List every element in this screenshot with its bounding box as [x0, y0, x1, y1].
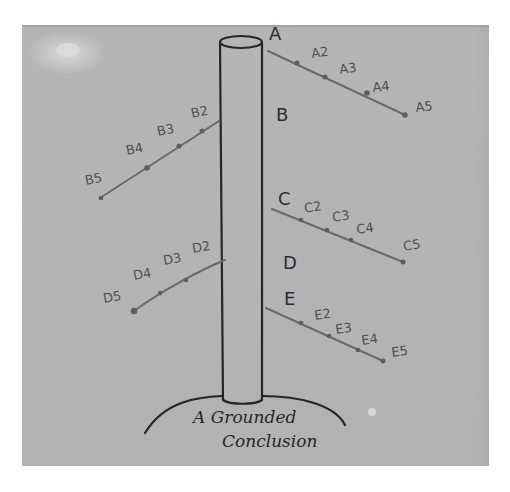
branch-a: A A2 A3 A4 A5: [268, 23, 433, 118]
branch-b: B B2 B3 B4 B5: [84, 103, 289, 201]
point-label: C5: [402, 236, 422, 254]
point-label: A2: [310, 44, 329, 61]
point-label: B4: [125, 140, 145, 158]
branch-d: D D2 D3 D4 D5: [102, 238, 297, 314]
point-label: D4: [132, 265, 153, 283]
branch-point: [327, 334, 332, 339]
point-label: C3: [331, 207, 351, 225]
point-label: B2: [190, 103, 210, 121]
point-label: C4: [355, 220, 374, 237]
point-label: B3: [156, 121, 176, 139]
glare-dot: [368, 408, 376, 416]
pillar: [220, 36, 262, 404]
glare-spot: [56, 43, 80, 57]
branch-e: E E2 E3 E4 E5: [266, 288, 409, 364]
branch-point: [158, 291, 162, 295]
branch-point: [200, 129, 205, 134]
branch-point: [299, 218, 304, 223]
branch-point: [325, 228, 330, 233]
branch-point: [295, 61, 300, 66]
point-label: E2: [313, 306, 331, 323]
point-label: D2: [191, 238, 212, 256]
point-label: A4: [372, 78, 391, 95]
pillar-base: [223, 400, 262, 404]
pillar-diagram: A A2 A3 A4 A5 B B2 B3 B4 B5 C C2 C3 C4 C…: [0, 0, 510, 492]
pillar-left-edge: [220, 43, 223, 400]
branch-point: [131, 308, 137, 314]
branch-point: [356, 348, 361, 353]
branch-point: [401, 260, 406, 265]
branch-point: [381, 359, 386, 364]
branch-point: [99, 196, 104, 201]
point-label: E5: [390, 343, 408, 360]
branch-point: [402, 112, 408, 118]
point-label: A3: [338, 60, 357, 77]
branch-point: [177, 144, 182, 149]
branch-label-c: C: [278, 188, 291, 209]
branch-point: [323, 75, 328, 80]
branch-label-a: A: [269, 23, 282, 44]
point-label: E4: [360, 331, 378, 348]
point-label: A5: [415, 98, 434, 115]
point-label: D3: [162, 250, 183, 268]
branch-point: [299, 321, 304, 326]
ground-caption-line1: A Grounded: [191, 407, 296, 427]
branch-point: [144, 165, 150, 171]
branch-label-e: E: [284, 288, 295, 309]
point-label: C2: [303, 198, 323, 216]
branch-point: [364, 90, 370, 96]
pillar-top: [220, 36, 262, 48]
branch-label-b: B: [276, 104, 288, 125]
point-label: D5: [102, 288, 123, 306]
pillar-right-edge: [262, 43, 263, 400]
point-label: E3: [334, 320, 352, 337]
branch-label-d: D: [283, 252, 297, 273]
branch-point: [349, 238, 354, 243]
branch-point: [184, 278, 188, 282]
ground-caption-line2: Conclusion: [222, 431, 317, 451]
point-label: B5: [84, 170, 104, 188]
